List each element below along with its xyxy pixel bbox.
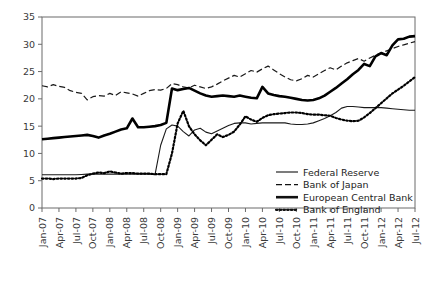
x-axis-label: Apr-10 <box>257 217 268 248</box>
y-axis-label: 15 <box>23 121 35 132</box>
y-axis-label: 0 <box>29 202 35 213</box>
x-axis-label: Jul-10 <box>274 217 285 245</box>
x-axis-label: Apr-08 <box>121 217 132 248</box>
x-axis-label: Oct-09 <box>223 217 234 249</box>
x-axis-label: Apr-12 <box>393 217 404 248</box>
x-axis-label: Jan-12 <box>376 217 387 248</box>
y-axis-label: 30 <box>23 39 35 50</box>
x-axis-label: Jul-11 <box>342 217 353 245</box>
legend-label-european-central-bank: European Central Bank <box>303 192 413 203</box>
y-axis-label: 35 <box>23 11 35 22</box>
x-axis-label: Jan-09 <box>172 217 183 248</box>
legend-label-bank-of-england: Bank of England <box>303 204 381 215</box>
x-axis-label: Apr-11 <box>325 217 336 248</box>
x-axis-label: Jan-10 <box>240 217 251 248</box>
x-axis-label: Jan-11 <box>308 217 319 248</box>
line-chart: 05101520253035Jan-07Apr-07Jul-07Oct-07Ja… <box>0 0 428 282</box>
x-axis-label: Jul-12 <box>410 217 421 245</box>
y-axis-label: 20 <box>23 93 35 104</box>
x-axis-label: Apr-09 <box>189 217 200 248</box>
series-line-european-central-bank <box>42 36 415 139</box>
x-axis-label: Jul-08 <box>138 217 149 245</box>
series-line-bank-of-england <box>42 77 415 179</box>
x-axis-label: Oct-10 <box>291 217 302 249</box>
x-axis-label: Oct-07 <box>87 217 98 249</box>
x-axis-label: Jul-07 <box>71 217 82 245</box>
x-axis-label: Apr-07 <box>54 217 65 248</box>
series-line-federal-reserve <box>42 107 415 175</box>
x-axis-label: Oct-08 <box>155 217 166 249</box>
x-axis-label: Jan-07 <box>37 217 48 248</box>
y-axis-label: 25 <box>23 66 35 77</box>
y-axis-label: 10 <box>23 148 35 159</box>
x-axis-label: Oct-11 <box>359 217 370 249</box>
y-axis-label: 5 <box>29 175 35 186</box>
x-axis-label: Jul-09 <box>206 217 217 245</box>
chart-container: 05101520253035Jan-07Apr-07Jul-07Oct-07Ja… <box>0 0 428 282</box>
legend-label-federal-reserve: Federal Reserve <box>303 167 379 178</box>
legend-label-bank-of-japan: Bank of Japan <box>303 179 369 190</box>
x-axis-label: Jan-08 <box>104 217 115 248</box>
